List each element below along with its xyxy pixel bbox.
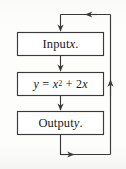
- node-input-label: Input x.: [17, 32, 104, 56]
- node-process-label: y=x2+2x: [17, 72, 104, 96]
- node-output-text-lead: Output: [38, 117, 73, 130]
- node-input-text-lead: Input: [43, 38, 70, 51]
- node-input-text-tail: .: [75, 38, 78, 51]
- node-output-text-tail: .: [79, 117, 82, 130]
- node-output-label: Output y.: [17, 111, 104, 135]
- node-process-rhs2-variable: x: [82, 78, 87, 90]
- node-process-equals: =: [42, 78, 49, 90]
- node-process-lhs: y: [33, 78, 38, 90]
- node-process-plus: +: [66, 78, 73, 90]
- flowchart-figure: Input x. y=x2+2x Output y.: [0, 0, 126, 169]
